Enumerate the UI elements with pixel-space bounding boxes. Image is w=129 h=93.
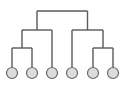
leaf-node: [47, 68, 58, 79]
leaf-node: [88, 68, 99, 79]
leaf-node: [67, 68, 78, 79]
leaf-node: [108, 68, 119, 79]
leaf-node: [7, 68, 18, 79]
dendrogram-icon: [0, 0, 129, 93]
leaf-node: [27, 68, 38, 79]
